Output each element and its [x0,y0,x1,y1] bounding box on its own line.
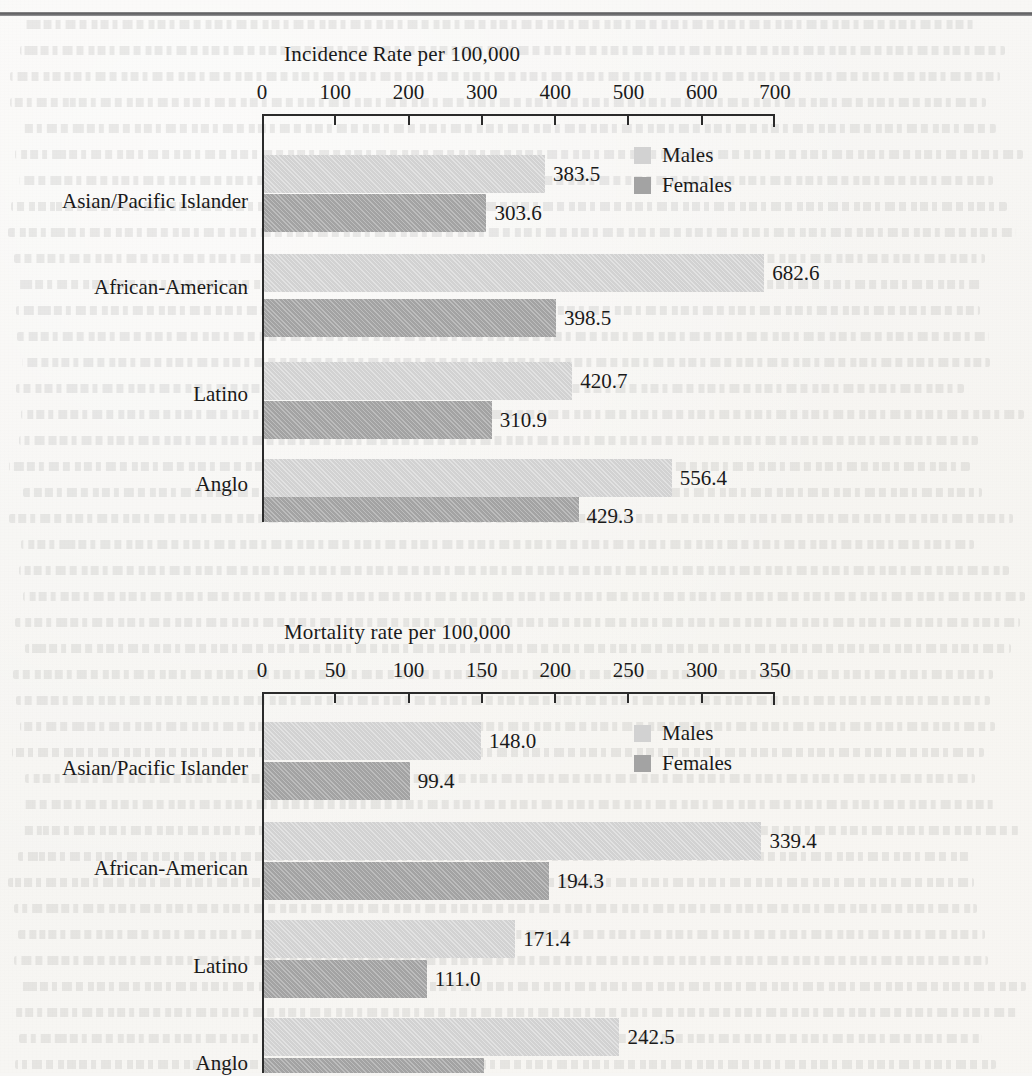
bar-females [264,762,410,800]
legend: Males Females [634,140,732,200]
bar-value-label: 148.0 [489,729,536,754]
category-label: Anglo [0,1051,248,1076]
legend-swatch-females-icon [634,755,651,772]
bar-females [264,299,556,337]
x-axis-tick-label: 150 [466,658,498,683]
x-axis-tick-label: 200 [393,80,425,105]
x-axis-tick-label: 700 [759,80,791,105]
chart-mortality-rate: Mortality rate per 100,000 0501001502002… [0,600,1032,1073]
x-axis-tick-label: 600 [686,80,718,105]
category-label: African-American [0,856,248,881]
bar-females [264,194,486,232]
legend: Males Females [634,718,732,778]
x-axis-tick [334,692,336,703]
x-axis-end-cap [773,114,775,127]
legend-label-males: Males [662,721,713,746]
page-top-rule [0,12,1032,16]
bar-value-label: 194.3 [557,869,604,894]
x-axis-line [262,692,775,694]
x-axis-end-cap [773,692,775,705]
x-axis-tick-label: 50 [325,658,346,683]
bar-value-label: 398.5 [564,306,611,331]
legend-swatch-males-icon [634,725,651,742]
bar-value-label: 682.6 [772,261,819,286]
bar-males [264,722,481,760]
legend-item-males: Males [634,718,732,748]
x-axis-tick [701,692,703,703]
legend-label-males: Males [662,143,713,168]
x-axis-tick-label: 350 [759,658,791,683]
x-axis-tick-label: 200 [539,658,571,683]
bar-value-label: 556.4 [680,466,727,491]
legend-label-females: Females [662,751,732,776]
bar-value-label: 171.4 [523,927,570,952]
chart-title: Incidence Rate per 100,000 [284,42,520,67]
legend-swatch-males-icon [634,147,651,164]
bar-females [264,1058,484,1073]
x-axis-tick [481,114,483,125]
bar-females [264,497,579,522]
bar-value-label: 99.4 [418,769,455,794]
bar-females [264,862,549,900]
x-axis-tick-label: 0 [257,80,268,105]
category-label: African-American [0,275,248,300]
legend-item-females: Females [634,748,732,778]
bar-value-label: 420.7 [580,369,627,394]
bar-females [264,960,427,998]
x-axis-line [262,114,775,116]
x-axis-tick [701,114,703,125]
category-label: Latino [0,954,248,979]
x-axis-tick [554,114,556,125]
legend-item-males: Males [634,140,732,170]
x-axis-tick-label: 300 [686,658,718,683]
bar-value-label: 242.5 [627,1025,674,1050]
legend-swatch-females-icon [634,177,651,194]
x-axis-tick-label: 300 [466,80,498,105]
category-label: Latino [0,382,248,407]
chart-title: Mortality rate per 100,000 [284,620,511,645]
bar-value-label: 383.5 [553,162,600,187]
x-axis-tick-label: 0 [257,658,268,683]
x-axis-tick [408,692,410,703]
bar-value-label: 339.4 [769,829,816,854]
bar-males [264,1018,619,1056]
x-axis-tick [481,692,483,703]
bar-value-label: 303.6 [494,201,541,226]
x-axis-tick [627,692,629,703]
category-label: Anglo [0,472,248,497]
x-axis-tick-label: 250 [613,658,645,683]
bar-males [264,920,515,958]
x-axis-tick-label: 100 [320,80,352,105]
x-axis-tick-label: 400 [539,80,571,105]
bar-males [264,362,572,400]
bar-females [264,401,492,439]
bar-males [264,155,545,193]
x-axis-tick [334,114,336,125]
bar-value-label: 310.9 [500,408,547,433]
x-axis-tick-label: 500 [613,80,645,105]
category-label: Asian/Pacific Islander [0,756,248,781]
bar-value-label: 429.3 [587,504,634,529]
bar-males [264,254,764,292]
legend-item-females: Females [634,170,732,200]
x-axis-tick [408,114,410,125]
legend-label-females: Females [662,173,732,198]
category-label: Asian/Pacific Islander [0,189,248,214]
x-axis-tick [627,114,629,125]
chart-incidence-rate: Incidence Rate per 100,000 0100200300400… [0,22,1032,522]
x-axis-tick [554,692,556,703]
bar-males [264,459,672,497]
x-axis-tick-label: 100 [393,658,425,683]
bar-value-label: 111.0 [435,967,481,992]
bar-males [264,822,761,860]
